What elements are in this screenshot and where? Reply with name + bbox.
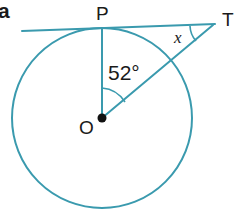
apex-angle-label: x xyxy=(174,29,182,46)
point-label-t: T xyxy=(222,10,234,29)
geometry-canvas xyxy=(0,0,235,220)
central-angle-arc xyxy=(102,88,125,102)
center-point-dot xyxy=(98,114,107,123)
point-label-o: O xyxy=(79,118,94,137)
point-label-p: P xyxy=(96,4,109,23)
part-label: a xyxy=(0,0,10,21)
central-angle-label: 52° xyxy=(108,62,140,83)
geometry-figure: a P T O 52° x xyxy=(0,0,235,220)
apex-angle-arc xyxy=(190,26,196,41)
